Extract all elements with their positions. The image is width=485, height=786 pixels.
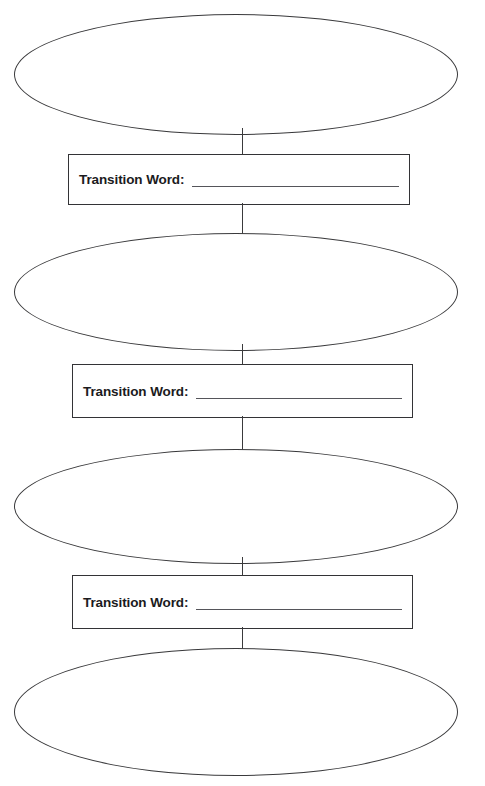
transition-word-blank-1[interactable] xyxy=(192,172,399,187)
transition-word-box-2[interactable]: Transition Word: xyxy=(72,364,413,418)
connector-oval1-to-box1 xyxy=(242,128,243,156)
transition-word-box-3[interactable]: Transition Word: xyxy=(72,575,413,629)
cropped-header-text xyxy=(38,0,128,6)
idea-oval-2[interactable] xyxy=(14,233,458,351)
transition-word-blank-2[interactable] xyxy=(196,384,402,399)
transition-word-box-1[interactable]: Transition Word: xyxy=(68,154,410,205)
transition-word-blank-3[interactable] xyxy=(196,595,402,610)
transition-word-label-2: Transition Word: xyxy=(73,384,188,399)
idea-oval-4[interactable] xyxy=(14,648,458,776)
connector-oval3-to-box3 xyxy=(242,557,243,577)
idea-oval-3[interactable] xyxy=(14,449,458,564)
transition-word-label-1: Transition Word: xyxy=(69,172,184,187)
idea-oval-1[interactable] xyxy=(14,14,458,135)
worksheet-page: Transition Word: Transition Word: Transi… xyxy=(0,0,485,786)
connector-oval2-to-box2 xyxy=(242,344,243,366)
transition-word-label-3: Transition Word: xyxy=(73,595,188,610)
